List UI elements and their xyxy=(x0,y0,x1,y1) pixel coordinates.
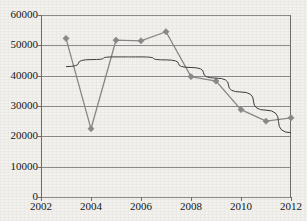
y-axis-tick-label: 30000 xyxy=(0,100,38,111)
y-axis-tick-label: 20000 xyxy=(0,130,38,141)
gridline xyxy=(41,197,291,198)
x-axis-tick-label: 2012 xyxy=(271,200,307,212)
data-point-marker xyxy=(163,29,169,35)
x-axis-tick xyxy=(191,197,192,201)
data-point-marker xyxy=(63,35,69,41)
x-axis-tick-label: 2002 xyxy=(21,200,61,212)
plot-area xyxy=(41,15,291,197)
y-axis-tick-label: 60000 xyxy=(0,9,38,20)
x-axis-tick xyxy=(41,197,42,201)
y-axis-labels: 0100002000030000400005000060000 xyxy=(0,0,38,221)
data-point-marker xyxy=(263,118,269,124)
x-axis-labels: 200220042006200820102012 xyxy=(0,200,307,218)
data-point-marker xyxy=(188,74,194,80)
x-axis-tick xyxy=(241,197,242,201)
chart-container: 0100002000030000400005000060000 20022004… xyxy=(0,0,307,221)
trendline-path xyxy=(66,57,291,133)
y-axis-tick-label: 40000 xyxy=(0,70,38,81)
x-axis-tick xyxy=(91,197,92,201)
series-layer xyxy=(41,15,291,197)
chart-title xyxy=(0,0,307,2)
y-axis-tick-label: 50000 xyxy=(0,39,38,50)
series-line xyxy=(66,32,291,129)
x-axis-tick-label: 2010 xyxy=(221,200,261,212)
x-axis-tick xyxy=(141,197,142,201)
x-axis-tick-label: 2006 xyxy=(121,200,161,212)
x-axis-tick-label: 2004 xyxy=(71,200,111,212)
data-point-marker xyxy=(138,38,144,44)
x-axis-tick-label: 2008 xyxy=(171,200,211,212)
x-axis-tick xyxy=(291,197,292,201)
y-axis-tick-label: 10000 xyxy=(0,161,38,172)
data-point-marker xyxy=(88,126,94,132)
data-point-marker xyxy=(288,115,294,121)
data-point-marker xyxy=(113,37,119,43)
